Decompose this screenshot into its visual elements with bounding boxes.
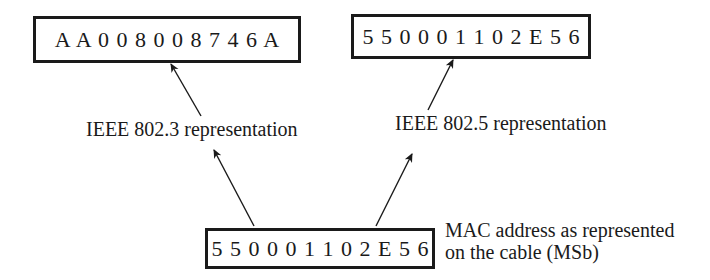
cable-address-value: 5 5 0 0 0 1 1 0 2 E 5 6 <box>212 236 429 262</box>
arrow-up-left-icon <box>171 64 254 226</box>
ieee-8023-label: IEEE 802.3 representation <box>86 119 298 139</box>
ieee-8023-address-value: A A 0 0 8 0 0 8 7 4 6 A <box>55 27 279 53</box>
cable-address-box: 5 5 0 0 0 1 1 0 2 E 5 6 <box>205 228 435 269</box>
ieee-8025-address-value: 5 5 0 0 0 1 1 0 2 E 5 6 <box>363 24 580 50</box>
arrow-up-right-icon <box>376 60 453 226</box>
cable-caption-line-1: MAC address as represented <box>445 219 685 241</box>
cable-caption: MAC address as represented on the cable … <box>445 219 685 263</box>
ieee-8023-address-box: A A 0 0 8 0 0 8 7 4 6 A <box>33 16 301 63</box>
ieee-8025-label: IEEE 802.5 representation <box>395 113 607 133</box>
ieee-8025-address-box: 5 5 0 0 0 1 1 0 2 E 5 6 <box>351 14 591 59</box>
cable-caption-line-2: on the cable (MSb) <box>445 241 685 263</box>
